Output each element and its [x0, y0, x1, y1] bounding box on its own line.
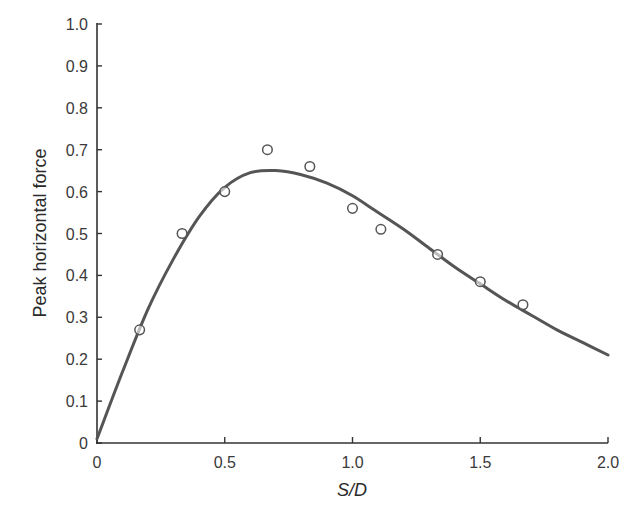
data-point-marker — [305, 162, 315, 172]
y-tick-label: 0 — [79, 435, 88, 452]
data-points — [135, 145, 528, 335]
y-axis-title: Peak horizontal force — [30, 148, 50, 317]
y-tick-label: 0.1 — [66, 393, 88, 410]
data-point-marker — [376, 225, 386, 235]
data-point-marker — [475, 277, 485, 287]
x-tick-label: 0.5 — [214, 454, 236, 471]
data-point-marker — [263, 145, 273, 155]
y-tick-label: 1.0 — [66, 16, 88, 33]
x-axis-ticks: 00.51.01.52.0 — [93, 437, 620, 471]
x-tick-label: 1.0 — [341, 454, 363, 471]
y-tick-label: 0.2 — [66, 351, 88, 368]
data-point-marker — [135, 325, 145, 335]
y-tick-label: 0.4 — [66, 267, 88, 284]
y-tick-label: 0.7 — [66, 142, 88, 159]
x-tick-label: 2.0 — [597, 454, 619, 471]
data-point-marker — [518, 300, 528, 310]
y-tick-label: 0.8 — [66, 100, 88, 117]
x-tick-label: 0 — [93, 454, 102, 471]
x-axis-title: S/D — [337, 480, 367, 500]
y-tick-label: 0.6 — [66, 184, 88, 201]
data-point-marker — [433, 250, 443, 260]
y-tick-label: 0.3 — [66, 309, 88, 326]
data-point-marker — [177, 229, 187, 239]
x-tick-label: 1.5 — [469, 454, 491, 471]
data-point-marker — [348, 204, 358, 214]
y-tick-label: 0.9 — [66, 58, 88, 75]
data-point-marker — [220, 187, 230, 197]
chart: 00.10.20.30.40.50.60.70.80.91.0 00.51.01… — [0, 0, 644, 523]
y-tick-label: 0.5 — [66, 226, 88, 243]
